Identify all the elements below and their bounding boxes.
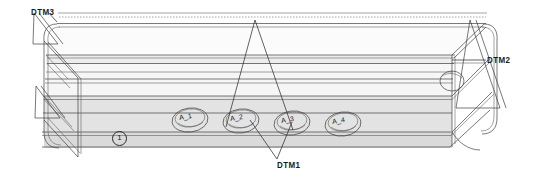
callout-circled-number-1: 1	[112, 131, 127, 146]
right-end-outer-profile	[482, 24, 497, 134]
part-body	[44, 24, 484, 148]
body-top-rear-face	[46, 24, 484, 55]
technical-drawing-svg: .ln{fill:none;stroke:#3f3f3f;stroke-widt…	[0, 0, 539, 178]
body-lower-face	[44, 132, 452, 148]
dtm3-label: DTM3	[31, 7, 54, 17]
dtm1-label: DTM1	[277, 160, 300, 170]
body-upper-band	[46, 55, 452, 64]
dtm2-label: DTM2	[487, 55, 510, 65]
drawing-canvas: .ln{fill:none;stroke:#3f3f3f;stroke-widt…	[0, 0, 539, 178]
body-inner-cavity	[46, 64, 452, 96]
dtm3-datum-triangle	[33, 13, 58, 44]
